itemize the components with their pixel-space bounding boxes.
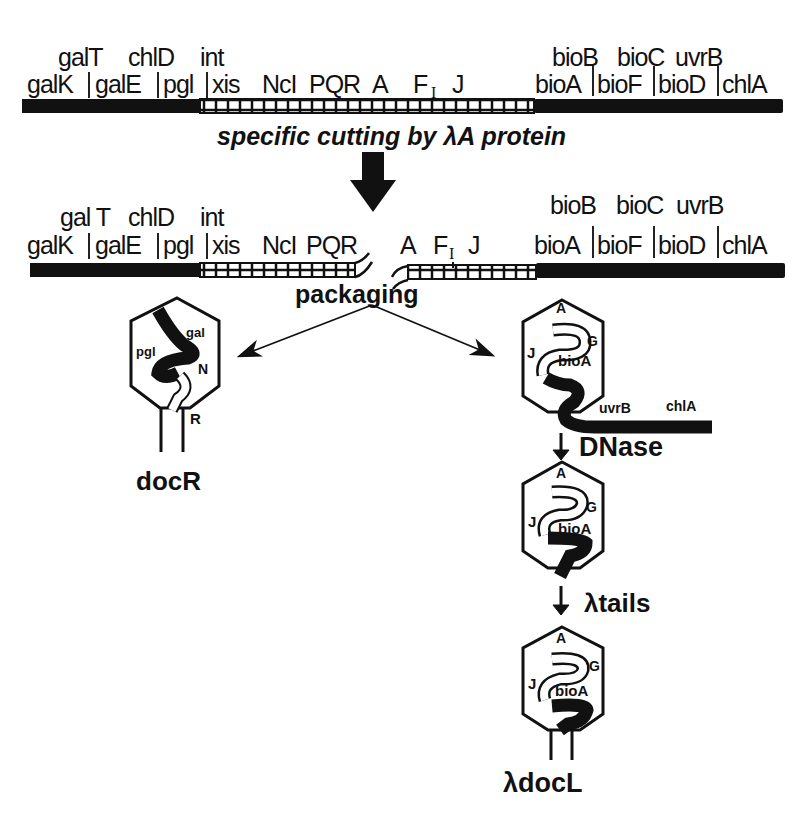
gene-label-uvrB: uvrB (675, 45, 722, 70)
gene-label-galT-cut: gal T (60, 205, 110, 230)
gene-label-NcI-cut: NcI (262, 233, 297, 258)
gene-label-NcI: NcI (262, 72, 297, 97)
right-phage3-label-A: A (556, 630, 566, 646)
gene-label-J-cut: J (468, 233, 480, 258)
gene-divider (592, 226, 594, 258)
gene-label-A-cut: A (400, 233, 416, 258)
gene-divider (717, 226, 719, 258)
gene-label-bioD: bioD (658, 72, 705, 97)
gene-label-bioC: bioC (617, 45, 664, 70)
gene-label-subscript-I-cut: I (449, 245, 454, 263)
gene-label-F: F (413, 72, 427, 97)
gene-label-uvrB-cut: uvrB (676, 193, 723, 218)
left-phage-label-N: N (198, 361, 208, 377)
gene-label-xis-cut: xis (212, 233, 240, 258)
gene-label-chlD: chlD (128, 45, 174, 70)
top-dna-bar (22, 99, 783, 113)
gene-label-bioA: bioA (535, 72, 581, 97)
gene-divider (653, 66, 655, 96)
right-phage1-label-G: G (587, 333, 598, 349)
gene-label-galE: galE (95, 72, 141, 97)
right-phage1-label-A: A (556, 300, 566, 316)
left-phage-label-R: R (190, 410, 201, 427)
gene-divider (592, 66, 594, 96)
right-phage1-label-uvrB: uvrB (599, 400, 631, 416)
dnase-step-label: DNase (579, 432, 663, 463)
arrow-tails (553, 586, 569, 615)
gene-label-bioF-cut: bioF (597, 233, 642, 258)
gene-label-int: int (200, 45, 223, 70)
right-phage1-label-J: J (527, 344, 535, 361)
gene-label-bioF: bioF (597, 72, 642, 97)
gene-label-pgl: pgl (163, 72, 193, 97)
right-phage3-label-J: J (528, 675, 536, 692)
right-phage2-label-J: J (528, 513, 536, 530)
left-phage-name: docR (136, 466, 201, 497)
right-phage2-label-A: A (556, 465, 566, 481)
right-phage3-label-G: G (589, 658, 600, 674)
right-phage1-label-bioA: bioA (558, 352, 591, 369)
gene-label-bioD-cut: bioD (658, 233, 705, 258)
gene-label-chlA-cut: chlA (722, 233, 767, 258)
gene-label-int-cut: int (200, 205, 223, 230)
gene-divider (157, 233, 159, 259)
gene-divider (157, 72, 159, 98)
gene-label-subscript-I: I (431, 84, 436, 102)
big-down-arrow (350, 152, 396, 212)
gene-label-A: A (372, 72, 388, 97)
gene-divider (653, 226, 655, 258)
gene-label-F-cut: F (433, 233, 447, 258)
gene-label-PQR: PQR (309, 72, 360, 97)
gene-divider (88, 72, 90, 98)
right-phage2-label-bioA: bioA (558, 520, 591, 537)
packaging-label: packaging (295, 280, 419, 309)
gene-label-galT: galT (58, 45, 103, 70)
left-phage-label-gal: gal (186, 325, 205, 340)
right-phage1-label-chlA: chlA (666, 398, 696, 414)
right-phage2-label-G: G (586, 499, 597, 515)
gene-label-J: J (452, 72, 464, 97)
gene-label-pgl-cut: pgl (163, 233, 193, 258)
gene-label-bioB-cut: bioB (550, 193, 596, 218)
gene-label-chlD-cut: chlD (128, 205, 174, 230)
gene-label-galK-cut: galK (27, 233, 73, 258)
right-phage3-name: λdocL (503, 768, 583, 799)
right-phage3-label-bioA: bioA (555, 682, 588, 699)
arrow-dnase (553, 433, 569, 460)
tails-step-label: λtails (584, 588, 651, 619)
gene-label-galK: galK (27, 72, 73, 97)
gene-label-bioA-cut: bioA (534, 233, 580, 258)
gene-label-galE-cut: galE (95, 233, 141, 258)
gene-divider (206, 72, 208, 98)
gene-label-PQR-cut: PQR (306, 233, 357, 258)
gene-label-bioC-cut: bioC (616, 193, 663, 218)
left-phage-label-pgl: pgl (136, 344, 156, 359)
packaging-arrows (240, 305, 492, 356)
gene-divider (717, 66, 719, 96)
gene-label-xis: xis (212, 72, 240, 97)
gene-divider (88, 233, 90, 259)
cutting-step-label: specific cutting by λA protein (217, 122, 566, 151)
gene-label-chlA: chlA (722, 72, 767, 97)
gene-divider (206, 233, 208, 259)
